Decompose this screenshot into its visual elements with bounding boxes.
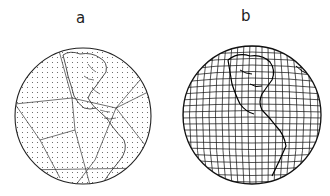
globe-a-icosahedral bbox=[15, 47, 152, 186]
globes-figure bbox=[0, 0, 330, 196]
globe-b-mesh bbox=[180, 44, 324, 186]
